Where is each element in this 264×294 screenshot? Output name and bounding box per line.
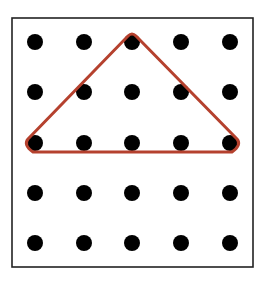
peg-dot xyxy=(27,84,43,100)
peg-dot xyxy=(27,34,43,50)
peg-dot xyxy=(173,135,189,151)
peg-dot xyxy=(27,235,43,251)
peg-dot xyxy=(27,185,43,201)
peg-dot xyxy=(76,185,92,201)
peg-dot xyxy=(124,84,140,100)
peg-dot xyxy=(173,185,189,201)
peg-dot xyxy=(222,84,238,100)
peg-dot xyxy=(124,235,140,251)
peg-dot xyxy=(222,185,238,201)
peg-dot xyxy=(173,34,189,50)
peg-dot xyxy=(76,235,92,251)
peg-dot xyxy=(124,185,140,201)
peg-dot xyxy=(76,135,92,151)
peg-dot xyxy=(124,135,140,151)
peg-dot xyxy=(222,235,238,251)
peg-dot xyxy=(173,235,189,251)
geoboard-diagram xyxy=(0,0,264,294)
peg-dot xyxy=(222,34,238,50)
peg-dot xyxy=(76,34,92,50)
